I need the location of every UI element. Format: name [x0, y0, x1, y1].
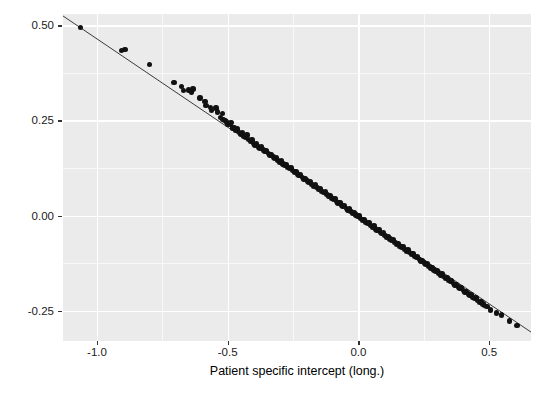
x-tick-mark: [228, 341, 229, 345]
scatter-point: [122, 47, 127, 52]
scatter-point: [171, 80, 176, 85]
x-tick-mark: [489, 341, 490, 345]
scatter-point: [220, 111, 225, 116]
x-tick-mark: [358, 341, 359, 345]
y-tick-label: 0.50: [32, 19, 54, 31]
scatter-point: [499, 312, 504, 317]
x-tick-label: -0.5: [218, 346, 238, 358]
scatter-point: [514, 323, 519, 328]
x-tick-label: 0.5: [481, 346, 497, 358]
x-tick-label: 0.0: [350, 346, 366, 358]
y-tick-mark: [58, 120, 62, 121]
y-tick-label: -0.25: [28, 305, 54, 317]
y-tick-mark: [58, 216, 62, 217]
y-tick-label: 0.00: [32, 210, 54, 222]
scatter-point: [190, 86, 195, 91]
plot-panel: [63, 14, 531, 341]
scatter-point: [507, 318, 512, 323]
x-axis-title: Patient specific intercept (long.): [63, 364, 531, 378]
scatter-point: [488, 307, 493, 312]
y-tick-mark: [58, 25, 62, 26]
y-tick-mark: [58, 311, 62, 312]
figure-root: -0.250.000.250.50-1.0-0.50.00.5 Patient …: [0, 0, 547, 396]
scatter-point: [147, 62, 152, 67]
scatter-point: [78, 25, 83, 30]
y-tick-label: 0.25: [32, 114, 54, 126]
x-tick-label: -1.0: [87, 346, 107, 358]
scatter-points: [63, 14, 531, 341]
x-tick-mark: [97, 341, 98, 345]
